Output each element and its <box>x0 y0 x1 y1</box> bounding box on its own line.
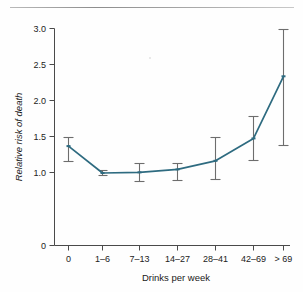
data-point-1 <box>101 172 105 174</box>
data-point-3 <box>176 168 180 170</box>
y-tick-label-1-5: 1.5 <box>33 132 46 142</box>
data-point-5 <box>252 137 256 139</box>
scan-speck <box>149 57 151 59</box>
data-point-0 <box>67 145 71 147</box>
error-bar-3 <box>173 164 183 181</box>
data-point-6 <box>282 75 286 77</box>
data-point-markers <box>67 75 286 174</box>
x-tick-label-gt-69: > 69 <box>275 254 293 264</box>
y-tick-label-2-0: 2.0 <box>33 96 46 106</box>
y-axis-ticks <box>50 29 55 246</box>
data-series-line <box>69 76 284 173</box>
x-tick-label-7-13: 7–13 <box>129 254 149 264</box>
error-bar-6 <box>279 30 289 146</box>
data-point-4 <box>214 160 218 162</box>
y-tick-label-3-0: 3.0 <box>33 24 46 34</box>
y-axis-title: Relative risk of death <box>13 93 24 182</box>
x-axis-ticks <box>69 246 284 251</box>
chart-figure: 3.0 2.5 2.0 1.5 1.0 0 0 1–6 7–13 14–27 2… <box>0 0 303 292</box>
x-tick-label-28-41: 28–41 <box>203 254 228 264</box>
x-tick-label-1-6: 1–6 <box>95 254 110 264</box>
x-tick-label-42-69: 42–69 <box>241 254 266 264</box>
relative-risk-line-chart: 3.0 2.5 2.0 1.5 1.0 0 0 1–6 7–13 14–27 2… <box>0 0 303 292</box>
x-axis-title: Drinks per week <box>142 272 210 283</box>
y-tick-label-2-5: 2.5 <box>33 60 46 70</box>
x-tick-label-0: 0 <box>66 254 71 264</box>
y-tick-label-0: 0 <box>41 241 46 251</box>
error-bars <box>64 30 289 182</box>
y-tick-label-1-0: 1.0 <box>33 168 46 178</box>
data-point-2 <box>138 171 142 173</box>
x-tick-label-14-27: 14–27 <box>165 254 190 264</box>
